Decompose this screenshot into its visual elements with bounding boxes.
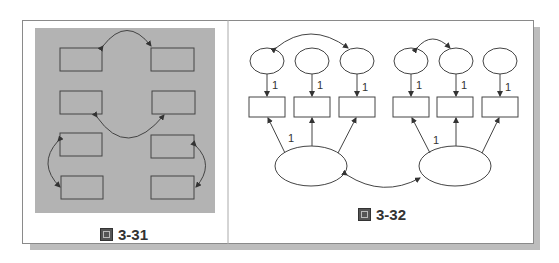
caption-text: 3-32 [376, 206, 406, 223]
indicator-box-1 [249, 97, 285, 117]
covariance-arrow-errors-1-3 [276, 34, 348, 48]
error-ellipse-5 [439, 48, 473, 74]
path-label: 1 [362, 81, 368, 93]
covariance-arrow-errors-4-5 [417, 39, 450, 48]
error-ellipse-2 [295, 48, 329, 74]
path-label: 1 [317, 79, 323, 91]
figure-3-31 [35, 28, 215, 213]
figure-icon [358, 208, 371, 221]
indicator-box-3 [339, 97, 375, 117]
caption-fig-3-32: 3-32 [358, 206, 406, 223]
diagram-canvas: 1 1 1 1 1 1 1 1 [0, 0, 559, 263]
caption-text: 3-31 [118, 226, 148, 243]
indicator-box-4 [393, 97, 429, 117]
indicator-box-5 [437, 97, 473, 117]
caption-fig-3-31: 3-31 [100, 226, 148, 243]
path-label: 1 [416, 79, 422, 91]
loading-label: 1 [433, 134, 439, 146]
gray-panel [35, 28, 215, 213]
path-label: 1 [272, 79, 278, 91]
error-ellipse-1 [250, 48, 284, 74]
figure-3-32 [249, 48, 518, 186]
path-label: 1 [505, 81, 511, 93]
error-ellipse-3 [340, 48, 374, 74]
covariance-arrow-latents [347, 175, 420, 187]
figure-icon [100, 228, 113, 241]
latent-ellipse-left [275, 146, 347, 186]
path-label: 1 [461, 79, 467, 91]
indicator-box-6 [482, 97, 518, 117]
loading-label: 1 [288, 132, 294, 144]
error-ellipse-4 [394, 48, 428, 74]
indicator-box-2 [294, 97, 330, 117]
error-ellipse-6 [483, 48, 517, 74]
